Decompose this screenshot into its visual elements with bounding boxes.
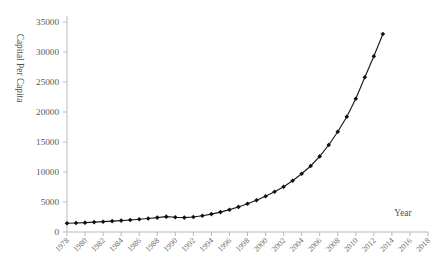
- x-tick-label: 1984: [107, 236, 125, 254]
- x-tick-label: 1998: [234, 236, 252, 254]
- y-tick-label: 5000: [41, 197, 60, 207]
- x-tick-label: 1980: [71, 236, 89, 254]
- y-tick-label: 10000: [36, 167, 59, 177]
- y-tick-label: 25000: [36, 77, 59, 87]
- x-tick-label: 1994: [198, 236, 216, 254]
- data-point-marker: [191, 215, 196, 220]
- data-point-marker: [363, 75, 368, 80]
- x-tick-label: 2014: [378, 236, 396, 254]
- y-tick-label: 20000: [36, 107, 59, 117]
- x-tick-label: 1990: [162, 236, 180, 254]
- data-point-marker: [182, 215, 187, 220]
- data-point-marker: [263, 194, 268, 199]
- x-tick-label: 1982: [89, 236, 107, 254]
- data-point-marker: [272, 190, 277, 195]
- data-point-marker: [137, 217, 142, 222]
- data-point-marker: [227, 207, 232, 212]
- data-point-marker: [372, 54, 377, 59]
- data-point-marker: [173, 215, 178, 220]
- x-axis: [67, 232, 428, 236]
- line-chart: 05000100001500020000250003000035000 1978…: [0, 0, 438, 270]
- data-point-marker: [209, 212, 214, 217]
- data-point-marker: [146, 216, 151, 221]
- data-point-marker: [101, 219, 106, 224]
- x-tick-label: 2000: [252, 236, 270, 254]
- y-axis: [63, 16, 67, 232]
- y-axis-title: Capital Per Capita: [15, 34, 25, 104]
- x-tick-label: 2010: [342, 236, 360, 254]
- x-tick-label: 2004: [288, 236, 306, 254]
- x-axis-title: Year: [394, 208, 412, 218]
- y-tick-label: 30000: [36, 47, 59, 57]
- y-tick-label: 35000: [36, 17, 59, 27]
- x-tick-label: 2002: [270, 236, 288, 254]
- x-tick-label: 2016: [396, 236, 414, 254]
- data-series-line: [67, 34, 383, 223]
- data-point-marker: [245, 202, 250, 207]
- x-tick-label: 1986: [125, 236, 143, 254]
- x-tick-label: 2006: [306, 236, 324, 254]
- data-point-marker: [236, 205, 241, 210]
- data-point-marker: [164, 214, 169, 219]
- x-tick-label: 1996: [216, 236, 234, 254]
- data-point-marker: [254, 198, 259, 203]
- data-point-marker: [65, 221, 70, 226]
- data-point-marker: [74, 221, 79, 226]
- chart-figure: 05000100001500020000250003000035000 1978…: [0, 0, 438, 270]
- x-tick-label: 2012: [360, 236, 378, 254]
- y-tick-label: 15000: [36, 137, 59, 147]
- y-tick-labels: 05000100001500020000250003000035000: [36, 17, 59, 237]
- x-tick-label: 1978: [53, 236, 71, 254]
- x-tick-label: 1988: [143, 236, 161, 254]
- x-tick-label: 2008: [324, 236, 342, 254]
- y-tick-label: 0: [54, 227, 59, 237]
- data-point-marker: [119, 218, 124, 223]
- data-point-marker: [92, 220, 97, 225]
- data-point-marker: [200, 214, 205, 219]
- data-point-marker: [354, 97, 359, 102]
- data-point-marker: [381, 32, 386, 37]
- data-point-marker: [110, 219, 115, 224]
- data-point-marker: [155, 215, 160, 220]
- data-point-markers: [65, 32, 385, 226]
- data-point-marker: [218, 210, 223, 215]
- x-tick-label: 1992: [180, 236, 198, 254]
- x-tick-labels: 1978198019821984198619881990199219941996…: [53, 236, 432, 254]
- data-point-marker: [128, 218, 133, 223]
- x-tick-label: 2018: [414, 236, 432, 254]
- data-point-marker: [83, 220, 88, 225]
